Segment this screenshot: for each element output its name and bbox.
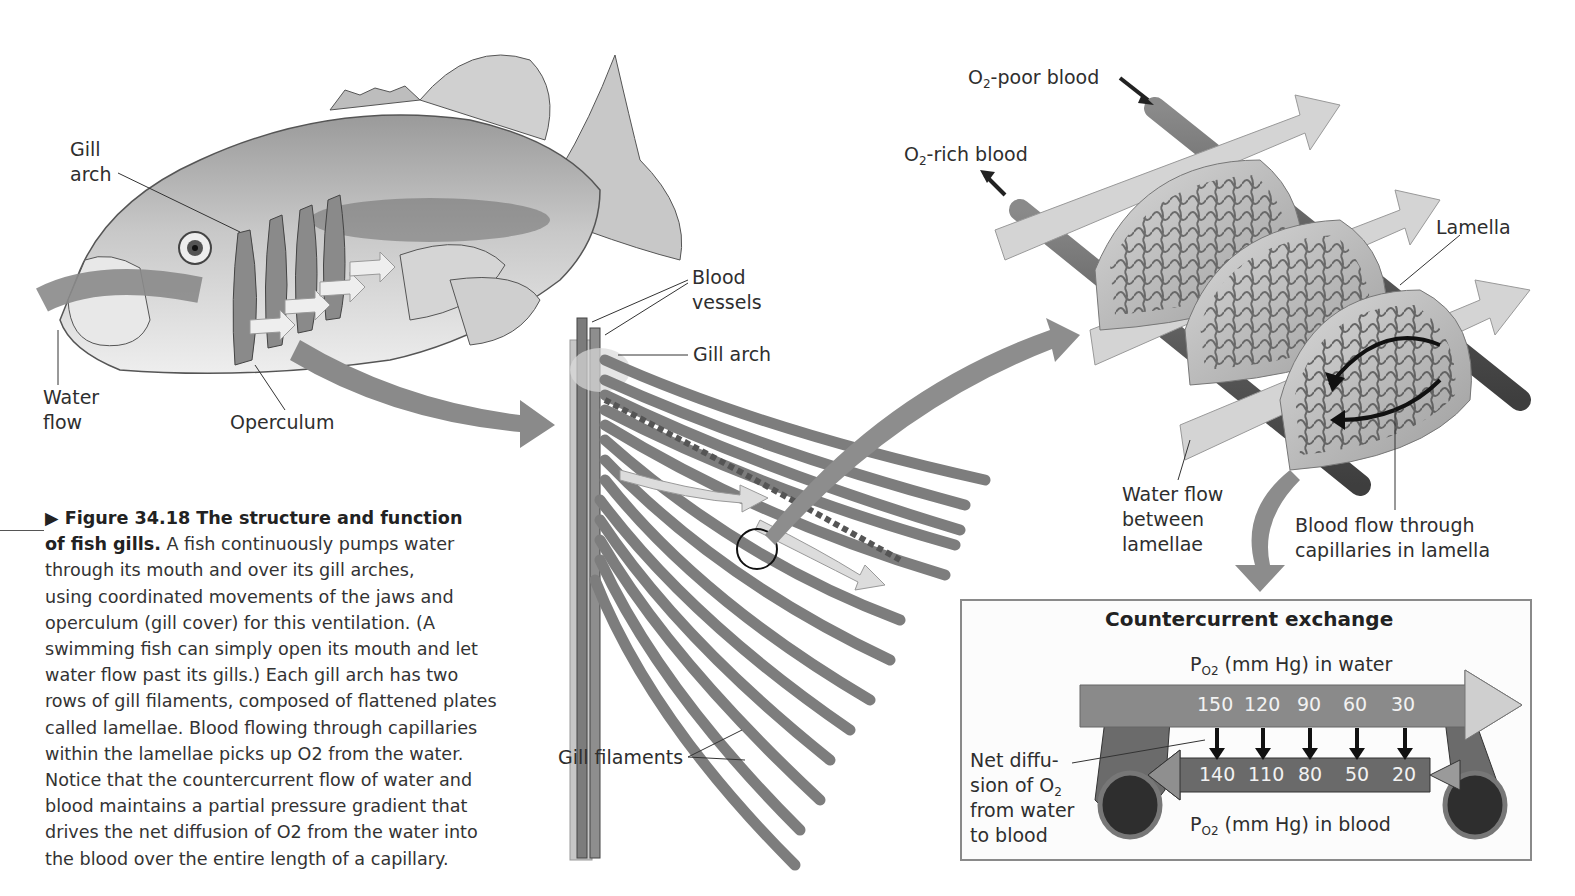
label-blood-flow-line2: capillaries in lamella [1295,538,1490,563]
o2-subscript: O2 [1201,664,1218,678]
p-symbol: P [1190,653,1201,675]
label-gill-arch-detail: Gill arch [693,342,771,367]
o2-subscript: O2 [1201,824,1218,838]
water-po2-value: 90 [1297,693,1321,715]
o2-poor-text: -poor blood [991,66,1100,88]
caption-line: blood maintains a partial pressure gradi… [45,793,535,819]
blood-po2-value: 140 [1199,763,1235,785]
label-blood-vessels-line2: vessels [692,290,762,315]
caption-title-line: ▶ Figure 34.18 The structure and functio… [45,505,535,531]
label-water-between-line1: Water flow [1122,482,1223,507]
label-net-diffusion: Net diffu- sion of O2 from water to bloo… [970,748,1074,848]
caption-marker-icon: ▶ [45,508,65,528]
net-diffusion-line2-text: sion of O [970,774,1054,796]
caption-line: through its mouth and over its gill arch… [45,557,535,583]
caption-line: within the lamellae picks up O2 from the… [45,741,535,767]
label-water-flow-line1: Water [43,385,99,410]
o2-subscript: 2 [919,154,927,168]
blood-po2-value: 20 [1392,763,1416,785]
o2-symbol: O [904,143,919,165]
caption-line: Notice that the countercurrent flow of w… [45,767,535,793]
label-po2-water: PO2 (mm Hg) in water [1190,652,1392,677]
caption-text: A fish continuously pumps water [161,534,454,554]
label-operculum: Operculum [230,410,334,435]
caption-title-cont: of fish gills. [45,534,161,554]
caption-line: using coordinated movements of the jaws … [45,584,535,610]
label-water-flow: Water flow [43,385,99,435]
caption-line: rows of gill filaments, composed of flat… [45,688,535,714]
o2-subscript: 2 [983,77,991,91]
caption-line: the blood over the entire length of a ca… [45,846,535,872]
label-o2-rich-blood: O2-rich blood [904,142,1028,167]
label-blood-vessels-line1: Blood [692,265,762,290]
caption-line: called lamellae. Blood flowing through c… [45,715,535,741]
blood-po2-value: 110 [1248,763,1284,785]
countercurrent-title: Countercurrent exchange [1105,607,1393,631]
label-blood-flow-line1: Blood flow through [1295,513,1490,538]
p-symbol: P [1190,813,1201,835]
water-po2-value: 120 [1244,693,1280,715]
label-water-flow-line2: flow [43,410,99,435]
net-diffusion-line1: Net diffu- [970,748,1074,773]
o2-subscript: 2 [1054,785,1062,799]
caption-line: operculum (gill cover) for this ventilat… [45,610,535,636]
label-water-between-line2: between [1122,507,1223,532]
po2-water-text: (mm Hg) in water [1219,653,1393,675]
po2-blood-text: (mm Hg) in blood [1219,813,1391,835]
net-diffusion-line2: sion of O2 [970,773,1074,798]
label-blood-flow-capillaries: Blood flow through capillaries in lamell… [1295,513,1490,563]
label-water-between-line3: lamellae [1122,532,1223,557]
label-gill-arch: Gill arch [70,137,112,187]
blood-po2-value: 50 [1345,763,1369,785]
o2-symbol: O [968,66,983,88]
blood-po2-value: 80 [1298,763,1322,785]
caption-line: drives the net diffusion of O2 from the … [45,819,535,845]
net-diffusion-line4: to blood [970,823,1074,848]
water-po2-value: 30 [1391,693,1415,715]
label-po2-blood: PO2 (mm Hg) in blood [1190,812,1391,837]
caption-line: of fish gills. A fish continuously pumps… [45,531,535,557]
label-gill-filaments: Gill filaments [558,745,683,770]
water-po2-value: 60 [1343,693,1367,715]
label-o2-poor-blood: O2-poor blood [968,65,1099,90]
water-po2-value: 150 [1197,693,1233,715]
caption-title: Figure 34.18 The structure and function [65,508,463,528]
label-lamella: Lamella [1436,215,1511,240]
label-blood-vessels: Blood vessels [692,265,762,315]
label-gill-arch-line1: Gill [70,137,112,162]
figure-caption: ▶ Figure 34.18 The structure and functio… [45,505,535,872]
caption-line: swimming fish can simply open its mouth … [45,636,535,662]
net-diffusion-line3: from water [970,798,1074,823]
label-water-flow-between-lamellae: Water flow between lamellae [1122,482,1223,557]
label-gill-arch-line2: arch [70,162,112,187]
caption-line: water flow past its gills.) Each gill ar… [45,662,535,688]
o2-rich-text: -rich blood [927,143,1028,165]
caption-rule [0,530,44,531]
